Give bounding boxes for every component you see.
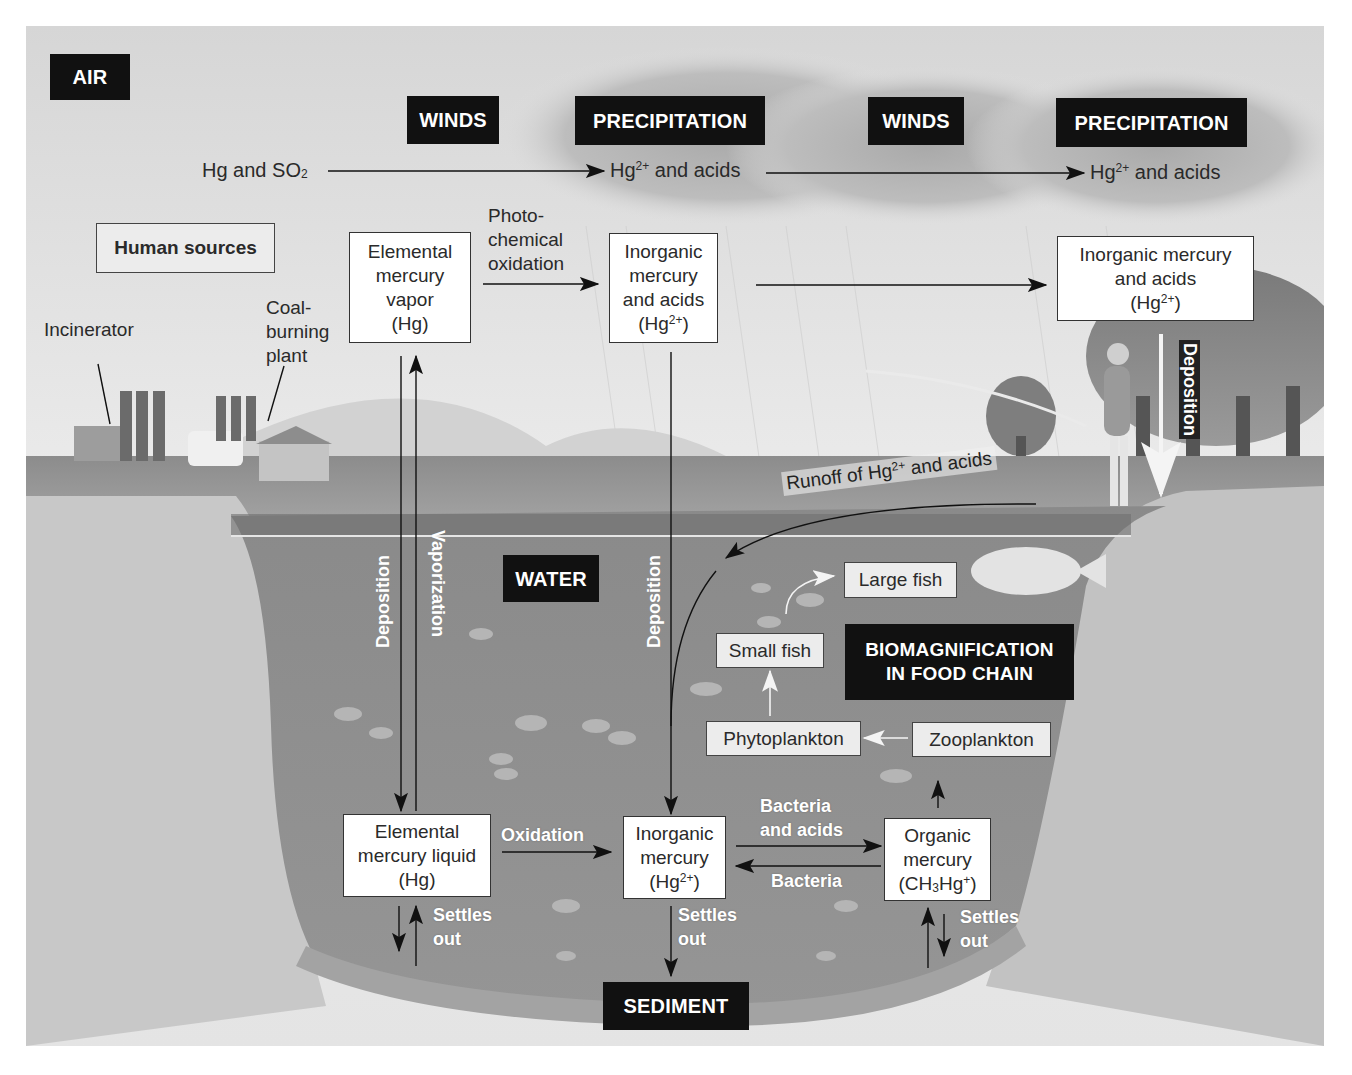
small-fish-box: Small fish xyxy=(716,633,824,668)
deposition-center-label: Deposition xyxy=(644,555,665,648)
precipitation-label-1: PRECIPITATION xyxy=(575,96,765,145)
air-zone-label: AIR xyxy=(50,54,130,100)
hg2-acids-label-1: Hg2+ and acids xyxy=(610,158,740,182)
human-sources-box: Human sources xyxy=(96,223,275,273)
elemental-mercury-liquid-box: Elemental mercury liquid (Hg) xyxy=(343,814,491,897)
settles-out-center-label: Settles out xyxy=(678,903,737,951)
settles-out-right-label: Settles out xyxy=(960,905,1019,953)
precipitation-label-2: PRECIPITATION xyxy=(1056,98,1247,147)
bacteria-and-acids-label: Bacteria and acids xyxy=(760,794,843,842)
inorganic-mercury-right-box: Inorganic mercury and acids (Hg2+) xyxy=(1057,236,1254,321)
inorganic-mercury-water-box: Inorganic mercury (Hg2+) xyxy=(623,816,726,899)
deposition-left-label: Deposition xyxy=(373,555,394,648)
mercury-cycle-diagram: AIR WINDS PRECIPITATION WINDS PRECIPITAT… xyxy=(26,26,1324,1046)
sediment-zone-label: SEDIMENT xyxy=(603,982,749,1030)
bacteria-label: Bacteria xyxy=(771,869,842,893)
zooplankton-box: Zooplankton xyxy=(912,722,1051,757)
hg2-acids-label-2: Hg2+ and acids xyxy=(1090,160,1220,184)
oxidation-label: Oxidation xyxy=(501,823,584,847)
organic-mercury-box: Organic mercury (CH3Hg+) xyxy=(884,818,991,901)
vaporization-label: Vaporization xyxy=(427,530,448,637)
incinerator-label: Incinerator xyxy=(44,318,134,342)
inorganic-mercury-air-box: Inorganic mercury and acids (Hg2+) xyxy=(609,233,718,343)
water-zone-label: WATER xyxy=(503,555,599,602)
winds-label-1: WINDS xyxy=(407,96,499,144)
photochemical-oxidation-label: Photo- chemical oxidation xyxy=(488,204,564,276)
elemental-mercury-vapor-box: Elemental mercury vapor (Hg) xyxy=(349,232,471,343)
biomagnification-label: BIOMAGNIFICATION IN FOOD CHAIN xyxy=(845,624,1074,700)
winds-label-2: WINDS xyxy=(868,97,964,145)
deposition-right-label: Deposition xyxy=(1179,340,1200,439)
phytoplankton-box: Phytoplankton xyxy=(706,721,861,756)
settles-out-left-label: Settles out xyxy=(433,903,492,951)
large-fish-box: Large fish xyxy=(844,562,957,598)
hg-so2-label: Hg and SO2 xyxy=(202,158,308,182)
coal-plant-label: Coal- burning plant xyxy=(266,296,329,368)
